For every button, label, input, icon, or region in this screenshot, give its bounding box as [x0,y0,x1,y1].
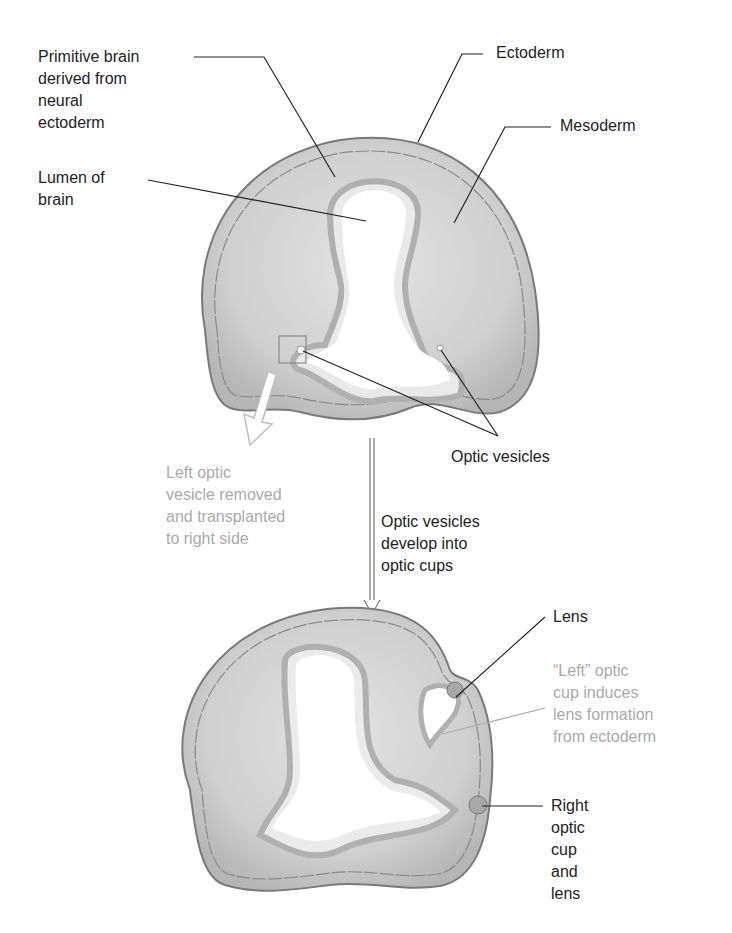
top-embryo-section [202,138,539,420]
label-lens: Lens [553,606,588,628]
down-arrow-icon [364,438,380,614]
label-optic-vesicles: Optic vesicles [451,446,550,468]
label-right-optic-cup: Right optic cup and lens [551,795,588,905]
lens-left [447,682,463,698]
leader-lens [456,617,545,697]
label-optic-vesicles-develop: Optic vesicles develop into optic cups [381,511,480,577]
label-mesoderm: Mesoderm [560,115,636,137]
lens-right [469,796,487,814]
right-optic-vesicle [437,345,443,351]
diagram-canvas [0,0,732,933]
left-optic-vesicle [297,346,305,354]
bottom-embryo-section [182,608,492,891]
label-lumen-of-brain: Lumen of brain [38,167,105,211]
label-left-vesicle-removed: Left optic vesicle removed and transplan… [166,462,285,550]
label-left-cup-induces: “Left” optic cup induces lens formation … [553,660,656,748]
leader-ectoderm [418,54,483,142]
label-ectoderm: Ectoderm [496,42,564,64]
label-primitive-brain: Primitive brain derived from neural ecto… [38,46,139,134]
